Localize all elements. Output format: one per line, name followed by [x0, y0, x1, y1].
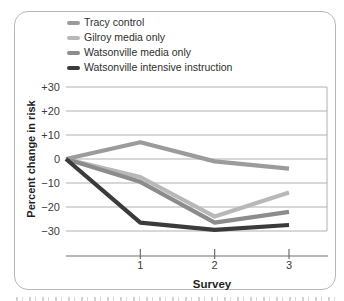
figure: Tracy control Gilroy media only Watsonvi… — [0, 0, 344, 301]
y-axis-title: Percent change in risk — [25, 100, 37, 217]
x-tick-label: 2 — [212, 259, 218, 271]
legend-line-swatch — [67, 36, 80, 40]
x-axis-title: Survey — [193, 278, 231, 290]
legend-item-tracy-control: Tracy control — [67, 15, 232, 30]
x-tick-label: 3 — [286, 259, 292, 271]
legend-line-swatch — [67, 21, 80, 25]
series-line-watsonville-media-only — [66, 159, 289, 223]
legend-item-watsonville-intensive-instruction: Watsonville intensive instruction — [67, 60, 232, 75]
legend-label: Watsonville intensive instruction — [84, 62, 232, 73]
figure-border-box: Tracy control Gilroy media only Watsonvi… — [14, 11, 336, 290]
series-line-tracy-control — [66, 142, 289, 168]
legend-label: Gilroy media only — [84, 32, 165, 43]
y-tick-label: +30 — [41, 81, 60, 93]
y-tick-label: −30 — [41, 225, 60, 237]
x-tick-label: 1 — [137, 259, 143, 271]
legend-item-gilroy-media-only: Gilroy media only — [67, 30, 232, 45]
legend-item-watsonville-media-only: Watsonville media only — [67, 45, 232, 60]
y-tick-label: 0 — [54, 153, 60, 165]
y-tick-label: −20 — [41, 201, 60, 213]
cropped-caption-fragment — [16, 297, 338, 301]
legend-label: Tracy control — [84, 17, 144, 28]
y-tick-label: +10 — [41, 129, 60, 141]
y-tick-label: −10 — [41, 177, 60, 189]
y-tick-label: +20 — [41, 105, 60, 117]
legend-line-swatch — [67, 66, 80, 70]
legend-line-swatch — [67, 51, 80, 55]
legend: Tracy control Gilroy media only Watsonvi… — [67, 15, 232, 75]
legend-label: Watsonville media only — [84, 47, 191, 58]
